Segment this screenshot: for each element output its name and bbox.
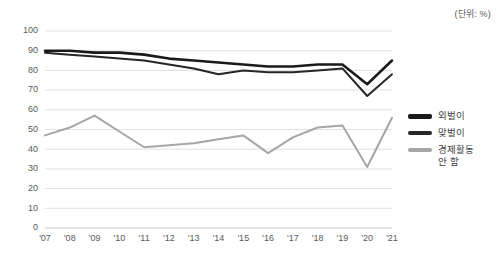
legend-label-single-income: 외벌이 xyxy=(438,110,465,122)
y-axis-tick-label: 60 xyxy=(28,104,38,114)
y-axis-tick-label: 70 xyxy=(28,84,38,94)
series-line-경제활동 안 함 xyxy=(45,116,392,167)
legend-item-not-economically-active: 경제활동 안 함 xyxy=(408,144,474,168)
legend-item-single-income: 외벌이 xyxy=(408,110,474,122)
gridlines-group xyxy=(45,31,392,228)
legend-label-dual-income: 맞벌이 xyxy=(438,127,465,139)
y-axis-tick-labels: 0102030405060708090100 xyxy=(23,25,38,232)
y-axis-tick-label: 10 xyxy=(28,203,38,213)
x-axis-tick-label: '13 xyxy=(188,233,200,243)
y-axis-tick-label: 20 xyxy=(28,183,38,193)
legend-swatch-single-income xyxy=(408,114,432,119)
x-axis-tick-label: '15 xyxy=(237,233,249,243)
y-axis-tick-label: 90 xyxy=(28,45,38,55)
x-axis-tick-label: '09 xyxy=(89,233,101,243)
x-axis-tick-label: '18 xyxy=(312,233,324,243)
legend-swatch-not-economically-active xyxy=(408,148,432,152)
x-axis-tick-labels: '07'08'09'10'11'12'13'14'15'16'17'18'19'… xyxy=(39,233,398,243)
legend-swatch-dual-income xyxy=(408,131,432,135)
x-axis-tick-label: '14 xyxy=(213,233,225,243)
chart-legend: 외벌이 맞벌이 경제활동 안 함 xyxy=(408,110,474,168)
y-axis-tick-label: 40 xyxy=(28,144,38,154)
x-axis-tick-label: '10 xyxy=(113,233,125,243)
chart-container: (단위: %) 0102030405060708090100 '07'08'09… xyxy=(0,0,501,260)
y-axis-tick-label: 80 xyxy=(28,65,38,75)
x-axis-tick-label: '21 xyxy=(386,233,398,243)
series-line-외벌이 xyxy=(45,51,392,84)
x-axis-tick-label: '19 xyxy=(337,233,349,243)
y-axis-tick-label: 100 xyxy=(23,25,38,35)
x-axis-tick-label: '17 xyxy=(287,233,299,243)
y-axis-tick-label: 50 xyxy=(28,124,38,134)
x-axis-tick-label: '16 xyxy=(262,233,274,243)
series-line-맞벌이 xyxy=(45,53,392,96)
x-axis-tick-label: '08 xyxy=(64,233,76,243)
legend-item-dual-income: 맞벌이 xyxy=(408,127,474,139)
y-axis-tick-label: 0 xyxy=(33,222,38,232)
x-axis-tick-label: '07 xyxy=(39,233,51,243)
legend-label-not-economically-active: 경제활동 안 함 xyxy=(438,144,474,168)
y-axis-tick-label: 30 xyxy=(28,163,38,173)
x-axis-tick-label: '20 xyxy=(361,233,373,243)
x-axis-tick-label: '12 xyxy=(163,233,175,243)
x-axis-tick-label: '11 xyxy=(139,233,150,243)
